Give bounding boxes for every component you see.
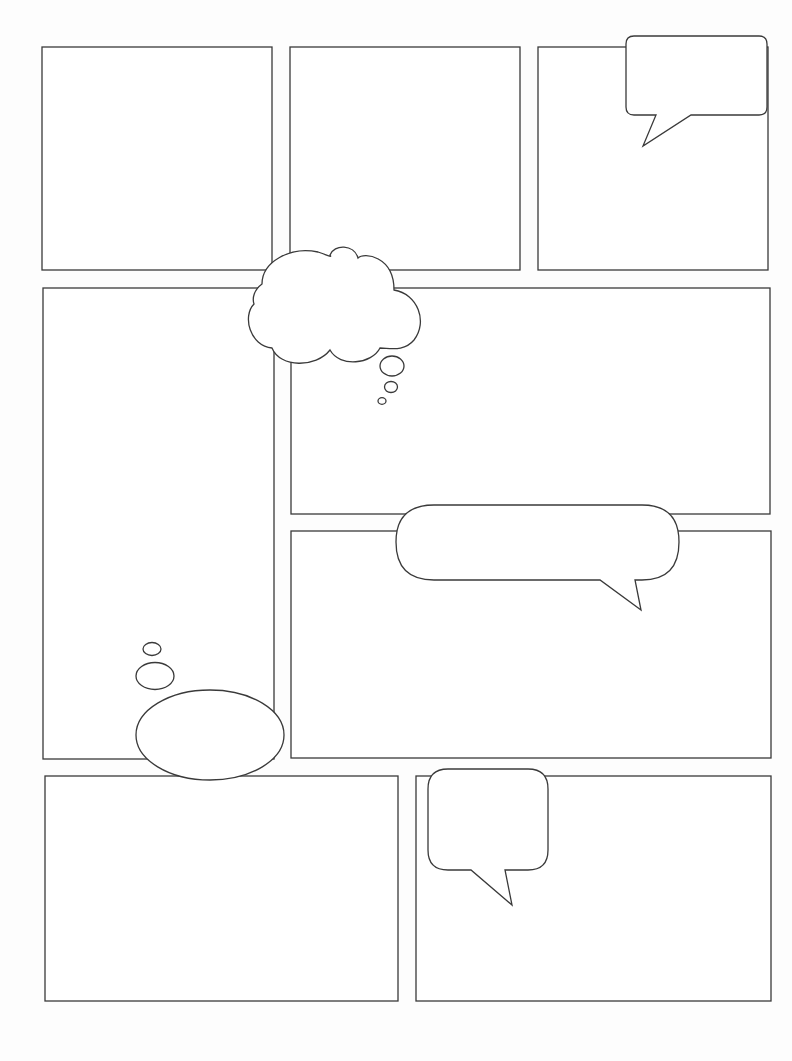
thought-ellipse-bubble[interactable]	[136, 690, 284, 780]
comic-page	[0, 0, 792, 1061]
thought-ellipse-dot-large	[136, 663, 174, 690]
panel-2[interactable]	[290, 47, 520, 270]
panel-7[interactable]	[45, 776, 398, 1001]
thought-dot-large	[380, 356, 404, 376]
thought-dot-medium	[385, 382, 398, 393]
thought-dot-small	[378, 398, 386, 405]
comic-layout	[0, 0, 792, 1061]
panel-1[interactable]	[42, 47, 272, 270]
thought-ellipse-dot-small	[143, 643, 161, 656]
